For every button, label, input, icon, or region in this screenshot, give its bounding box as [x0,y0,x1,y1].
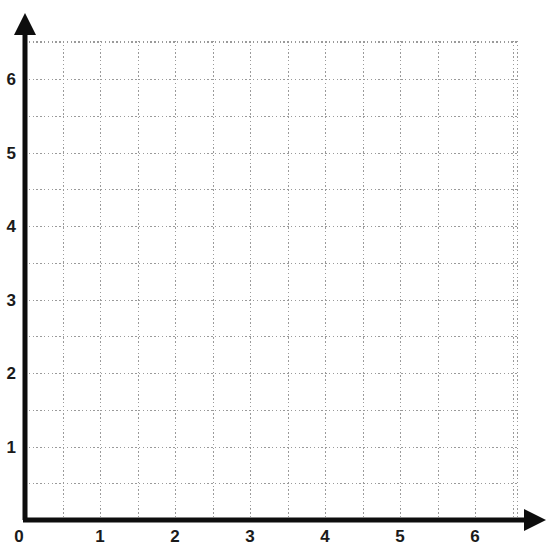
axes [14,13,546,531]
graph-svg [0,0,555,548]
y-axis-arrowhead [14,13,36,35]
y-tick-label: 2 [7,365,16,382]
y-tick-label: 5 [7,144,16,161]
x-tick-label: 4 [320,528,329,545]
x-axis-arrowhead [524,509,546,531]
y-tick-label: 3 [7,291,16,308]
x-tick-label: 3 [245,528,254,545]
x-tick-label: 1 [95,528,104,545]
y-tick-label: 6 [7,71,16,88]
y-tick-label: 1 [7,438,16,455]
x-tick-label: 6 [470,528,479,545]
x-tick-label: 5 [395,528,404,545]
coordinate-grid-graph [0,0,555,548]
y-tick-label: 4 [7,218,16,235]
origin-label: 0 [14,528,23,545]
x-tick-label: 2 [170,528,179,545]
gridlines-minor [25,41,518,520]
